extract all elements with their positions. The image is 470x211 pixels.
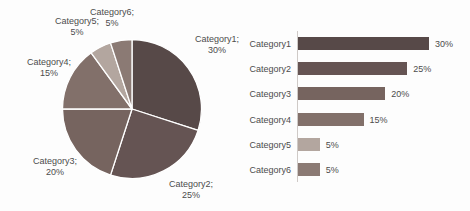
pie-chart <box>61 38 203 180</box>
pie-label-category6-name: Category6; <box>90 7 134 18</box>
pie-label-category4-name: Category4; <box>27 57 71 68</box>
bar-row: Category3 20% <box>235 81 470 106</box>
bar-category-label: Category3 <box>235 89 298 99</box>
bar-category-label: Category6 <box>235 165 298 175</box>
bar-value-label: 25% <box>413 64 431 74</box>
bar-category-label: Category2 <box>235 64 298 74</box>
pie-label-category3-name: Category3; <box>33 156 77 167</box>
bar-category-label: Category5 <box>235 140 298 150</box>
pie-label-category1-value: 30% <box>195 45 239 56</box>
pie-label-category3: Category3; 20% <box>33 156 77 178</box>
bar-category4[interactable] <box>298 113 364 126</box>
pie-label-category6: Category6; 5% <box>90 7 134 29</box>
pie-label-category6-value: 5% <box>90 18 134 29</box>
bar-category6[interactable] <box>298 163 320 176</box>
pie-label-category2: Category2; 25% <box>169 179 213 201</box>
bar-chart: Category1 30% Category2 25% Category3 20… <box>235 0 470 211</box>
pie-label-category4: Category4; 15% <box>27 57 71 79</box>
bar-category2[interactable] <box>298 62 407 75</box>
bar-value-label: 30% <box>435 39 453 49</box>
bar-row: Category6 5% <box>235 157 470 182</box>
pie-label-category1: Category1; 30% <box>195 34 239 56</box>
pie-label-category4-value: 15% <box>27 68 71 79</box>
bar-category-label: Category4 <box>235 115 298 125</box>
bar-category1[interactable] <box>298 37 429 50</box>
chart-canvas: Category1; 30% Category2; 25% Category3;… <box>0 0 470 211</box>
pie-label-category1-name: Category1; <box>195 34 239 45</box>
pie-label-category3-value: 20% <box>33 167 77 178</box>
bar-value-label: 20% <box>391 89 409 99</box>
bar-row: Category5 5% <box>235 132 470 157</box>
bar-row: Category2 25% <box>235 56 470 81</box>
pie-label-category2-name: Category2; <box>169 179 213 190</box>
bar-value-label: 5% <box>326 165 339 175</box>
bar-value-label: 5% <box>326 140 339 150</box>
bar-category-label: Category1 <box>235 39 298 49</box>
bar-category5[interactable] <box>298 138 320 151</box>
pie-label-category2-value: 25% <box>169 190 213 201</box>
bar-row: Category1 30% <box>235 31 470 56</box>
bar-value-label: 15% <box>370 115 388 125</box>
bar-row: Category4 15% <box>235 107 470 132</box>
bar-category3[interactable] <box>298 87 385 100</box>
